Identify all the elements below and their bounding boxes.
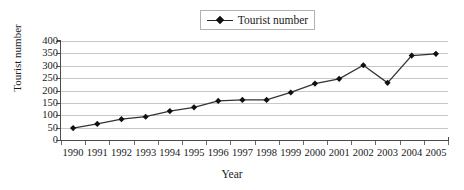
data-point-marker (312, 80, 318, 86)
y-tick-mark (56, 91, 60, 92)
series-tourist-number (61, 41, 448, 140)
y-tick-mark (56, 140, 60, 141)
x-tick-mark (255, 141, 256, 145)
data-point-marker (288, 89, 294, 95)
legend-item-label: Tourist number (238, 14, 308, 26)
data-point-marker (94, 121, 100, 127)
y-tick-mark (56, 128, 60, 129)
x-tick-mark (400, 141, 401, 145)
chart-container: Tourist number Tourist number 0501001502… (0, 0, 464, 190)
y-tick-label: 250 (32, 73, 58, 83)
x-tick-mark (134, 141, 135, 145)
y-tick-mark (56, 41, 60, 42)
data-point-marker (118, 116, 124, 122)
y-tick-mark (56, 53, 60, 54)
chart-legend: Tourist number (200, 10, 315, 30)
y-tick-label: 300 (32, 61, 58, 71)
y-tick-label: 100 (32, 110, 58, 120)
series-line (73, 54, 436, 128)
x-tick-mark (182, 141, 183, 145)
y-tick-mark (56, 115, 60, 116)
y-axis-title: Tourist number (11, 13, 23, 103)
data-point-marker (167, 108, 173, 114)
x-tick-mark (375, 141, 376, 145)
y-tick-label: 200 (32, 86, 58, 96)
x-tick-mark (279, 141, 280, 145)
x-tick-mark (61, 141, 62, 145)
x-tick-mark (206, 141, 207, 145)
data-point-marker (336, 76, 342, 82)
y-axis-tick-labels: 050100150200250300350400 (28, 0, 58, 190)
x-tick-mark (327, 141, 328, 145)
x-tick-mark (158, 141, 159, 145)
x-tick-mark (424, 141, 425, 145)
y-tick-mark (56, 78, 60, 79)
x-tick-mark (351, 141, 352, 145)
data-point-marker (239, 97, 245, 103)
data-point-marker (70, 125, 76, 131)
data-point-marker (263, 97, 269, 103)
data-point-marker (143, 114, 149, 120)
y-tick-label: 350 (32, 48, 58, 58)
data-point-marker (191, 104, 197, 110)
data-point-marker (215, 98, 221, 104)
x-tick-mark (109, 141, 110, 145)
x-tick-label: 2005 (419, 147, 453, 159)
y-tick-label: 400 (32, 36, 58, 46)
plot-area (61, 41, 448, 140)
x-tick-mark (85, 141, 86, 145)
y-tick-label: 50 (32, 123, 58, 133)
x-tick-mark (448, 141, 449, 145)
x-axis-title: Year (0, 168, 464, 180)
diamond-marker-icon (207, 15, 233, 25)
y-tick-mark (56, 103, 60, 104)
y-tick-label: 150 (32, 98, 58, 108)
data-point-marker (433, 51, 439, 57)
x-tick-mark (230, 141, 231, 145)
y-tick-mark (56, 66, 60, 67)
x-tick-mark (303, 141, 304, 145)
y-tick-label: 0 (32, 135, 58, 145)
